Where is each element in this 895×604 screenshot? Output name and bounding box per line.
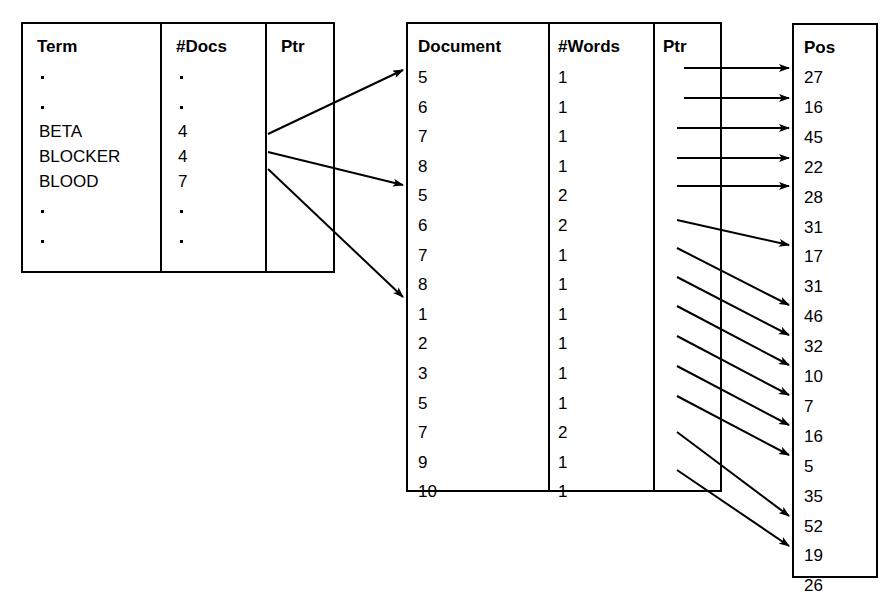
postings-document-cell: 6 (418, 99, 427, 116)
postings-document-cell: 8 (418, 276, 427, 293)
dictionary-docs-blood: 7 (178, 173, 187, 190)
position-cell: 19 (804, 547, 823, 564)
dictionary-header-term: Term (37, 38, 77, 55)
postings-words-cell: 2 (558, 424, 567, 441)
postings-column-divider-1 (548, 24, 550, 490)
position-cell: 28 (804, 189, 823, 206)
postings-document-cell: 3 (418, 365, 427, 382)
position-header-pos: Pos (804, 39, 835, 56)
postings-words-cell: 1 (558, 335, 567, 352)
dictionary-docs-dot-1 (180, 106, 183, 109)
postings-document-cell: 6 (418, 217, 427, 234)
postings-document-cell: 10 (418, 483, 437, 500)
position-cell: 31 (804, 278, 823, 295)
postings-document-cell: 7 (418, 247, 427, 264)
position-cell: 46 (804, 308, 823, 325)
dictionary-term-beta: BETA (39, 123, 82, 140)
postings-document-cell: 5 (418, 395, 427, 412)
postings-words-cell: 1 (558, 483, 567, 500)
position-cell: 31 (804, 219, 823, 236)
position-table: Pos 2716452228311731463210716535521926 (792, 23, 878, 578)
dictionary-term-dot-0 (41, 76, 44, 79)
dictionary-term-dot-6 (41, 240, 44, 243)
postings-words-cell: 1 (558, 365, 567, 382)
position-cell: 10 (804, 368, 823, 385)
postings-words-cell: 1 (558, 247, 567, 264)
postings-words-cell: 1 (558, 395, 567, 412)
position-cell: 16 (804, 428, 823, 445)
postings-document-cell: 1 (418, 306, 427, 323)
position-cell: 27 (804, 69, 823, 86)
postings-words-cell: 1 (558, 128, 567, 145)
postings-words-cell: 1 (558, 99, 567, 116)
postings-document-cell: 5 (418, 69, 427, 86)
postings-words-cell: 1 (558, 158, 567, 175)
position-cell: 17 (804, 248, 823, 265)
postings-header-document: Document (418, 38, 501, 55)
postings-words-cell: 1 (558, 276, 567, 293)
postings-header-words: #Words (558, 38, 620, 55)
document-postings-table: Document #Words Ptr 51617181526271811121… (406, 22, 722, 492)
postings-words-cell: 1 (558, 306, 567, 323)
postings-document-cell: 9 (418, 454, 427, 471)
position-cell: 26 (804, 577, 823, 594)
position-cell: 7 (804, 398, 813, 415)
postings-document-cell: 5 (418, 187, 427, 204)
dictionary-column-divider-1 (160, 24, 162, 271)
position-cell: 52 (804, 518, 823, 535)
dictionary-docs-dot-5 (180, 210, 183, 213)
position-cell: 35 (804, 488, 823, 505)
dictionary-table: Term #Docs Ptr BETA 4 BLOCKER 4 BLOOD 7 (21, 22, 335, 273)
position-cell: 32 (804, 338, 823, 355)
postings-header-ptr: Ptr (663, 38, 687, 55)
dictionary-docs-beta: 4 (178, 123, 187, 140)
position-cell: 45 (804, 129, 823, 146)
dictionary-column-divider-2 (265, 24, 267, 271)
dictionary-docs-blocker: 4 (178, 148, 187, 165)
diagram-canvas: Term #Docs Ptr BETA 4 BLOCKER 4 BLOOD 7 … (0, 0, 895, 604)
postings-column-divider-2 (653, 24, 655, 490)
dictionary-term-dot-5 (41, 210, 44, 213)
postings-document-cell: 7 (418, 424, 427, 441)
position-cell: 16 (804, 99, 823, 116)
dictionary-header-ptr: Ptr (281, 38, 305, 55)
dictionary-docs-dot-0 (180, 76, 183, 79)
postings-document-cell: 7 (418, 128, 427, 145)
postings-document-cell: 8 (418, 158, 427, 175)
dictionary-header-docs: #Docs (176, 38, 227, 55)
dictionary-term-blocker: BLOCKER (39, 148, 120, 165)
dictionary-term-dot-1 (41, 106, 44, 109)
dictionary-docs-dot-6 (180, 240, 183, 243)
position-cell: 5 (804, 458, 813, 475)
postings-words-cell: 1 (558, 454, 567, 471)
postings-document-cell: 2 (418, 335, 427, 352)
position-cell: 22 (804, 159, 823, 176)
postings-words-cell: 2 (558, 217, 567, 234)
postings-words-cell: 1 (558, 69, 567, 86)
postings-words-cell: 2 (558, 187, 567, 204)
dictionary-term-blood: BLOOD (39, 173, 99, 190)
